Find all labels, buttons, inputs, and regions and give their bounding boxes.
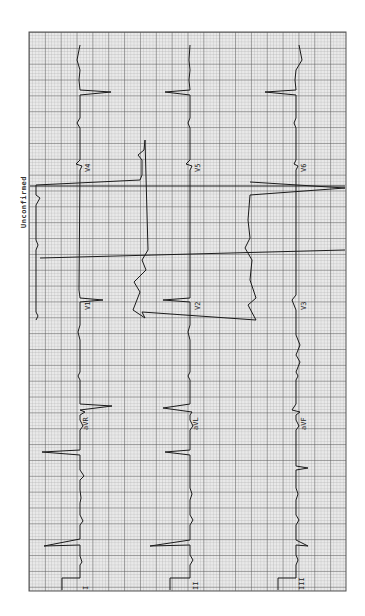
lead-label-aVF: aVF (300, 417, 308, 430)
lead-label-V2: V2 (194, 302, 202, 310)
lead-label-III: III (298, 577, 306, 590)
lead-label-V5: V5 (194, 164, 202, 172)
lead-label-aVR: aVR (82, 417, 90, 430)
lead-label-I: I (82, 586, 90, 590)
lead-label-aVL: aVL (192, 417, 200, 430)
lead-label-V6: V6 (300, 164, 308, 172)
lead-label-V3: V3 (300, 302, 308, 310)
ecg-status-label: Unconfirmed (20, 176, 28, 228)
lead-label-V1: V1 (84, 302, 92, 310)
ecg-paper (0, 0, 365, 616)
lead-label-II: II (192, 582, 200, 590)
lead-label-V4: V4 (84, 164, 92, 172)
